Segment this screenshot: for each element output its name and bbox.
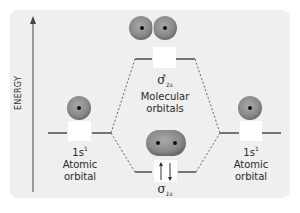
arrow-up-icon: [30, 16, 36, 24]
molecular-text: Molecular: [125, 91, 205, 103]
atomic-text: Atomic: [226, 159, 276, 171]
config-superscript: 1: [255, 145, 259, 152]
bonding-label: σ1s: [145, 183, 185, 200]
orbital-text: orbital: [55, 171, 105, 183]
orbital-text: orbital: [226, 171, 276, 183]
right-atomic-orbital: [220, 96, 281, 141]
sigma-symbol: σ: [157, 182, 165, 196]
antibonding-star: *: [162, 73, 166, 81]
right-atomic-label: 1s1 Atomic orbital: [226, 143, 276, 183]
orbital-subscript: 1s: [166, 190, 173, 197]
left-atomic-orbital: [48, 96, 111, 141]
orbital-subscript: 1s: [166, 81, 173, 88]
bonding-orbital: [135, 130, 196, 182]
config-text: 1s: [72, 147, 84, 158]
orbitals-text: orbitals: [125, 103, 205, 115]
antibonding-orbital: [129, 16, 195, 68]
energy-axis: [30, 16, 36, 192]
energy-axis-label: ENERGY: [14, 76, 23, 110]
atomic-text: Atomic: [55, 159, 105, 171]
config-text: 1s: [243, 147, 255, 158]
config-superscript: 1: [84, 145, 88, 152]
left-atomic-label: 1s1 Atomic orbital: [55, 143, 105, 183]
antibonding-label: σ*1s Molecular orbitals: [125, 71, 205, 115]
